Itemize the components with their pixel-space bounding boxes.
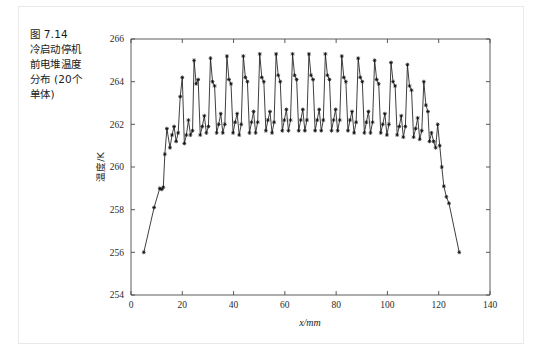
data-point-marker [243,76,247,80]
data-series-group [142,52,461,254]
y-tick-label: 256 [110,248,125,258]
data-point-marker [414,127,418,131]
data-point-marker [152,206,156,210]
data-point-marker [326,73,330,77]
data-point-marker [194,82,198,86]
data-point-marker [323,52,327,56]
data-point-marker [285,108,289,112]
data-point-marker [198,133,202,137]
x-tick-label: 40 [229,300,239,310]
data-point-marker [278,80,282,84]
data-point-marker [424,103,428,107]
data-point-marker [270,131,274,135]
data-point-marker [303,129,307,133]
data-point-marker [379,131,383,135]
data-point-marker [428,140,432,144]
x-axis-title: x/mm [298,317,321,328]
data-point-marker [422,80,426,84]
data-point-marker [219,112,223,116]
data-point-marker [385,133,389,137]
data-point-marker [403,125,407,129]
data-point-marker [338,118,342,122]
data-point-marker [346,129,350,133]
data-point-marker [401,135,405,139]
data-point-marker [209,56,213,60]
x-tick-label: 100 [380,300,395,310]
data-point-marker [293,73,297,77]
data-point-marker [213,84,217,88]
data-point-marker [163,152,167,156]
x-tick-label: 140 [483,300,498,310]
data-point-marker [373,58,377,62]
data-point-marker [321,118,325,122]
data-point-marker [457,250,461,254]
data-point-marker [340,54,344,58]
data-point-marker [350,110,354,114]
data-point-marker [241,54,245,58]
data-point-marker [334,108,338,112]
data-point-marker [408,84,412,88]
data-point-marker [260,76,264,80]
data-point-marker [412,135,416,139]
data-point-marker [180,76,184,80]
y-tick-label: 260 [110,162,125,172]
data-point-marker [305,118,309,122]
data-point-marker [377,82,381,86]
data-point-marker [395,133,399,137]
y-tick-label: 258 [110,205,125,215]
data-point-marker [250,120,254,124]
data-point-marker [418,137,422,141]
data-point-marker [248,131,252,135]
data-point-marker [196,78,200,82]
data-point-marker [307,52,311,56]
data-point-marker [223,122,227,126]
data-point-marker [239,122,243,126]
data-point-marker [268,110,272,114]
data-point-marker [276,73,280,77]
data-point-marker [217,122,221,126]
temperature-distribution-chart: 020406080100120140 254256258260262264266… [0,0,542,357]
data-point-marker [227,78,231,82]
data-point-marker [399,114,403,118]
x-tick-label: 60 [280,300,290,310]
data-point-marker [319,129,323,133]
data-point-marker [369,131,373,135]
data-point-marker [381,122,385,126]
data-point-marker [289,118,293,122]
data-point-marker [389,61,393,65]
data-point-marker [393,84,397,88]
data-point-marker [258,52,262,56]
data-point-marker [182,142,186,146]
data-point-marker [362,131,366,135]
data-point-marker [200,125,204,129]
data-point-marker [165,127,169,131]
data-point-marker [295,78,299,82]
data-point-marker [391,80,395,84]
data-point-marker [430,131,434,135]
data-point-marker [178,95,182,99]
data-point-marker [229,82,233,86]
data-point-marker [311,78,315,82]
data-point-marker [309,73,313,77]
data-point-marker [266,118,270,122]
data-point-marker [387,122,391,126]
data-point-marker [299,118,303,122]
data-point-marker [358,76,362,80]
x-tick-label: 0 [129,300,134,310]
data-point-marker [371,120,375,124]
data-point-marker [161,185,165,189]
data-point-marker [420,129,424,133]
data-point-marker [215,131,219,135]
data-point-marker [235,112,239,116]
data-point-marker [274,52,278,56]
data-point-marker [142,250,146,254]
data-point-marker [204,131,208,135]
data-point-marker [254,131,258,135]
data-point-marker [280,129,284,133]
y-tick-label: 262 [110,120,125,130]
data-point-marker [231,131,235,135]
data-point-marker [397,125,401,129]
data-point-marker [174,140,178,144]
data-point-marker [287,129,291,133]
data-point-marker [264,129,268,133]
